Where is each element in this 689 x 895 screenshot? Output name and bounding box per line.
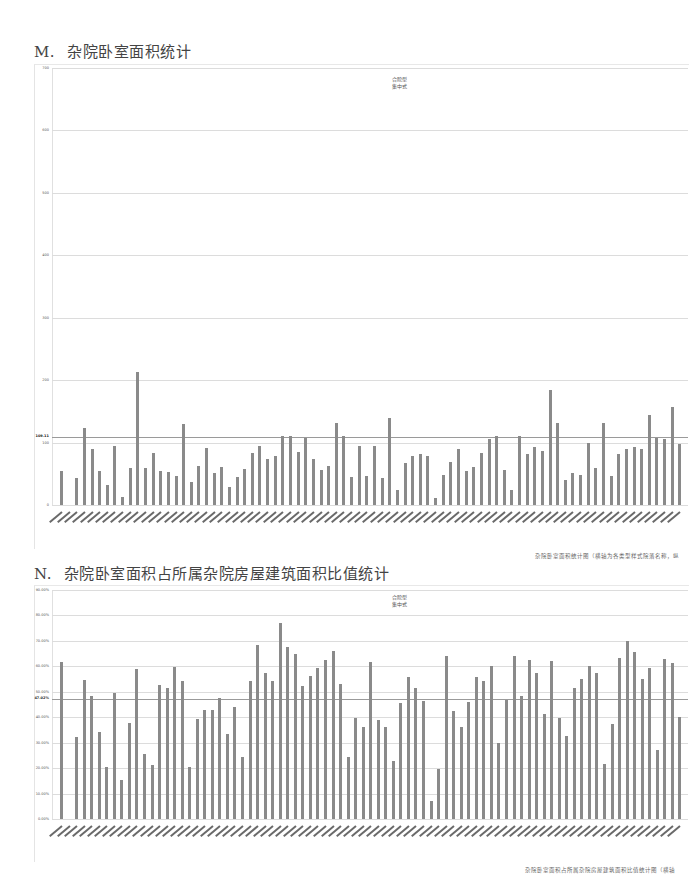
chart-m-bar [342, 436, 345, 505]
chart-n-ytick-label: 80.00% [19, 613, 49, 617]
chart-m-bar [373, 446, 376, 505]
chart-m-bar [182, 424, 185, 505]
chart-n-bar [158, 685, 161, 819]
chart-n-legend: 合院型 集中式 [369, 594, 429, 608]
chart-m-bar [281, 436, 284, 505]
chart-n-bar [603, 764, 606, 819]
chart-n-bar [173, 667, 176, 819]
chart-n-plot: 合院型 集中式 0.00%10.00%20.00%30.00%40.00%50.… [52, 590, 688, 819]
chart-n-bar [384, 727, 387, 819]
section-m-title: M.杂院卧室面积统计 [34, 40, 191, 61]
chart-n-bar [60, 662, 63, 819]
chart-n-bar [475, 677, 478, 819]
chart-m-average-line [52, 437, 688, 438]
chart-m-gridline [52, 130, 688, 131]
section-m-letter: M. [34, 43, 55, 61]
chart-m-bar [426, 456, 429, 505]
chart-m-bar [663, 439, 666, 505]
chart-n-bar [430, 801, 433, 819]
chart-m-bar [197, 466, 200, 505]
chart-n-bar [580, 679, 583, 819]
legend-item-jizhong: 集中式 [369, 601, 429, 608]
chart-m-gridline [52, 380, 688, 381]
chart-m-bar [610, 476, 613, 505]
chart-n-bar [452, 711, 455, 819]
chart-m-gridline [52, 318, 688, 319]
chart-n-bar [460, 727, 463, 819]
chart-m-bar [411, 456, 414, 505]
chart-n-bar [535, 673, 538, 819]
chart-m-bar [381, 478, 384, 505]
chart-m-bar [594, 468, 597, 505]
chart-n-bar [128, 723, 131, 819]
chart-m-bar [159, 471, 162, 505]
chart-n-ytick-label: 30.00% [19, 741, 49, 745]
chart-n-bar [482, 681, 485, 819]
chart-n-ytick-label: 0.00% [19, 817, 49, 821]
chart-m-bar [488, 439, 491, 505]
chart-m-bar [266, 459, 269, 505]
chart-n-bar [445, 656, 448, 819]
chart-n-bar [83, 680, 86, 819]
chart-n-bar [656, 750, 659, 819]
chart-n-bar [226, 734, 229, 819]
chart-m-bar [106, 485, 109, 505]
chart-n-bar [588, 666, 591, 819]
chart-m-bar [91, 449, 94, 505]
chart-n-bar [196, 719, 199, 819]
chart-n-bar [271, 681, 274, 819]
chart-n-bar [316, 668, 319, 819]
chart-n-bar [422, 701, 425, 819]
chart-m-bar [533, 447, 536, 505]
chart-m-bar [129, 468, 132, 505]
chart-n-bar [301, 686, 304, 819]
chart-n-ytick-label: 40.00% [19, 715, 49, 719]
chart-m-bar [419, 454, 422, 505]
chart-m-bar [365, 476, 368, 505]
chart-m-bar [121, 497, 124, 505]
chart-n-y-axis [52, 590, 53, 819]
chart-m-bar [335, 423, 338, 505]
chart-m-bar [274, 456, 277, 505]
chart-m-bar [640, 449, 643, 505]
chart-m-ytick-label: 700 [19, 66, 49, 70]
legend-item-heyuan: 合院型 [369, 594, 429, 601]
chart-n-bar [573, 688, 576, 819]
chart-m-average-label: 109.11 [19, 434, 49, 438]
chart-m-bar [526, 454, 529, 505]
chart-m-bar [556, 423, 559, 505]
chart-m-gridline [52, 255, 688, 256]
chart-m-bar [655, 438, 658, 505]
chart-n-bar [241, 757, 244, 819]
chart-m-bar [83, 428, 86, 505]
chart-n-bar [437, 769, 440, 819]
chart-m-bar [472, 467, 475, 505]
chart-n-bar [256, 645, 259, 819]
chart-m-bar [510, 490, 513, 505]
chart-n-bar [354, 718, 357, 819]
chart-n-bar [558, 718, 561, 819]
chart-n-ytick-label: 90.00% [19, 588, 49, 592]
chart-m-bar [564, 480, 567, 505]
chart-n-bar [543, 714, 546, 819]
chart-n-bar [249, 681, 252, 819]
chart-n-bar [626, 641, 629, 819]
chart-m-legend: 合院型 集中式 [369, 76, 429, 90]
chart-m-bar [579, 475, 582, 505]
chart-m-bar [144, 468, 147, 505]
chart-n-bar [414, 688, 417, 819]
chart-n-ytick-label: 60.00% [19, 664, 49, 668]
chart-m-bar [327, 466, 330, 505]
section-n-letter: N. [34, 565, 52, 583]
chart-n-ytick-label: 70.00% [19, 639, 49, 643]
chart-n-bar [324, 660, 327, 819]
chart-n-bar [399, 703, 402, 819]
chart-n-bar [671, 663, 674, 819]
chart-m-bar [541, 451, 544, 505]
chart-m-bar [312, 459, 315, 505]
chart-m-ytick-label: 500 [19, 191, 49, 195]
chart-m-bar [480, 453, 483, 505]
chart-n-bar [595, 673, 598, 819]
chart-n-bar [347, 757, 350, 819]
chart-m-bar [633, 447, 636, 505]
